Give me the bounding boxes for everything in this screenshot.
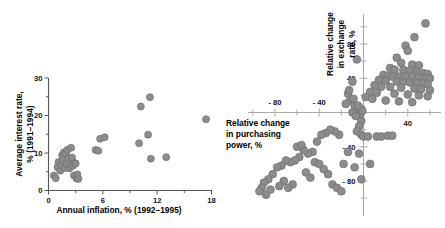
chart-panel-inflation-vs-interest: 0612180102030 Annual inflation, % (1992–… [0,0,222,228]
x-tick-label: 12 [153,196,161,205]
figure-root: 0612180102030 Annual inflation, % (1992–… [0,0,445,228]
data-point [382,97,390,105]
y-tick-label: 0 [38,186,42,195]
data-point [366,160,374,168]
data-point [68,144,75,151]
data-point [147,155,154,162]
data-point [354,102,362,110]
data-point [350,95,358,103]
data-point [364,133,372,141]
right-x-axis-label-line1: Relative change [226,118,290,128]
y-tick-label: 30 [34,74,42,83]
data-point [415,91,423,99]
data-point [391,90,399,98]
data-point [408,98,416,106]
data-point [146,94,153,101]
left-data-points [50,94,209,183]
scatter-plot-left: 0612180102030 Annual inflation, % (1992–… [0,0,222,228]
data-point [345,86,353,94]
left-tick-labels: 0612180102030 [34,74,216,205]
left-y-axis-label-line1: Average interest rate, [14,91,24,176]
data-point [52,175,59,182]
data-point [75,175,82,182]
chart-panel-purchasing-vs-exchange: - 80- 40408040- 40- 80 Relative change i… [222,0,445,228]
left-axis-ticks [45,78,212,195]
data-point [344,148,352,156]
data-point [302,169,310,177]
data-point [137,103,144,110]
x-tick-label: 40 [404,119,412,128]
data-point [101,134,108,141]
data-point [313,138,321,146]
y-tick-label: 20 [34,111,42,120]
data-point [95,147,102,154]
x-tick-label: 6 [101,196,105,205]
scatter-plot-right: - 80- 40408040- 40- 80 Relative change i… [222,0,445,228]
x-tick-label: - 40 [313,98,326,107]
data-point [397,84,405,92]
data-point [163,154,170,161]
right-x-axis-label-line3: power, % [226,140,263,150]
x-tick-label: 18 [207,196,215,205]
data-point [424,92,432,100]
data-point [267,186,275,194]
data-point [72,160,79,167]
data-point [337,187,345,195]
right-y-axis-label-line1: Relative change [325,12,335,76]
data-point [422,20,430,28]
data-point [203,116,210,123]
data-point [342,100,350,108]
data-point [386,83,394,91]
data-point [318,131,326,139]
data-point [284,184,292,192]
data-point [145,131,152,138]
y-tick-label: - 80 [342,177,355,186]
right-y-axis-label-line3: rate, % [347,30,357,58]
data-point [136,140,143,147]
y-tick-label: 10 [34,149,42,158]
x-tick-label: - 80 [268,98,281,107]
data-point [340,160,348,168]
data-point [324,170,332,178]
left-y-axis-label-line2: % (1991–1994) [25,105,35,162]
data-point [388,132,396,140]
left-x-axis-label: Annual inflation, % (1992–1995) [56,205,181,215]
data-point [349,78,357,86]
data-point [351,163,359,171]
data-point [404,47,412,55]
data-point [275,182,283,190]
data-point [404,91,412,99]
data-point [395,97,403,105]
data-point [368,95,376,103]
data-point [355,150,363,158]
data-point [357,175,365,183]
right-x-axis-label-line2: in purchasing [226,129,281,139]
data-point [298,141,306,149]
x-tick-label: 0 [46,196,50,205]
data-point [273,163,281,171]
data-point [411,33,419,41]
right-y-axis-label-line2: in exchange [336,19,346,68]
